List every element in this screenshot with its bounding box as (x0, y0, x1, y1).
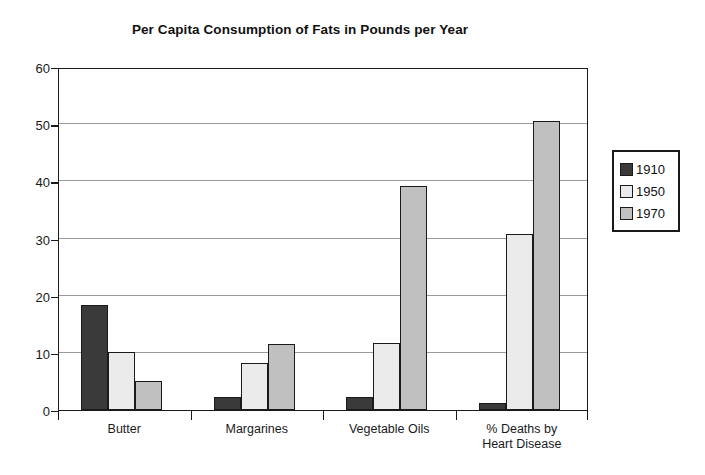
bar-group (324, 69, 457, 410)
x-axis-category-label-line1: Margarines (191, 422, 324, 437)
y-axis-tick-mark (51, 182, 58, 183)
legend-label: 1950 (636, 184, 665, 199)
x-axis-tick-mark (191, 411, 192, 420)
y-axis-tick-mark (51, 354, 58, 355)
legend-swatch-icon (620, 185, 633, 198)
bar-1970[interactable] (400, 186, 427, 410)
y-axis-tick-label: 60 (6, 61, 50, 76)
y-axis-tick-label: 30 (6, 232, 50, 247)
x-axis: ButterMargarinesVegetable Oils% Deaths b… (58, 411, 588, 471)
bar-1910[interactable] (346, 397, 373, 410)
chart-legend: 191019501970 (612, 150, 680, 232)
bar-group (192, 69, 325, 410)
legend-item-1950[interactable]: 1950 (620, 180, 673, 202)
legend-label: 1910 (636, 162, 665, 177)
x-axis-tick-mark (323, 411, 324, 420)
bar-1970[interactable] (533, 121, 560, 410)
bar-group (457, 69, 590, 410)
y-axis-tick-marks (50, 68, 58, 411)
x-axis-category-label: Margarines (191, 422, 324, 437)
bar-1950[interactable] (108, 352, 135, 410)
y-axis-tick-label: 20 (6, 289, 50, 304)
y-axis-tick-label: 50 (6, 118, 50, 133)
y-axis-tick-label: 10 (6, 346, 50, 361)
x-axis-category-label: Butter (58, 422, 191, 437)
x-axis-tick-mark (587, 411, 588, 420)
y-axis-tick-mark (51, 297, 58, 298)
y-axis-tick-mark (51, 240, 58, 241)
x-axis-category-label-line2: Heart Disease (456, 437, 589, 452)
y-axis-tick-mark (51, 125, 58, 126)
bar-1950[interactable] (373, 343, 400, 410)
plot-area (58, 68, 588, 411)
bar-1910[interactable] (479, 403, 506, 410)
bar-group (59, 69, 192, 410)
bars-layer (59, 69, 587, 410)
legend-swatch-icon (620, 207, 633, 220)
y-axis-tick-mark (51, 68, 58, 69)
bar-1910[interactable] (214, 397, 241, 410)
y-axis-tick-label: 0 (6, 404, 50, 419)
x-axis-tick-mark (456, 411, 457, 420)
bar-1950[interactable] (241, 363, 268, 410)
x-axis-category-label: Vegetable Oils (323, 422, 456, 437)
legend-item-1970[interactable]: 1970 (620, 202, 673, 224)
x-axis-category-label-line1: Vegetable Oils (323, 422, 456, 437)
bar-chart: Per Capita Consumption of Fats in Pounds… (0, 0, 705, 475)
bar-1950[interactable] (506, 234, 533, 410)
x-axis-tick-mark (58, 411, 59, 420)
legend-item-1910[interactable]: 1910 (620, 158, 673, 180)
y-axis-tick-label: 40 (6, 175, 50, 190)
legend-label: 1970 (636, 206, 665, 221)
chart-title: Per Capita Consumption of Fats in Pounds… (0, 22, 600, 37)
bar-1970[interactable] (268, 344, 295, 410)
bar-1910[interactable] (81, 305, 108, 410)
y-axis-tick-mark (51, 411, 58, 412)
x-axis-category-label-line1: Butter (58, 422, 191, 437)
bar-1970[interactable] (135, 381, 162, 410)
x-axis-category-label: % Deaths byHeart Disease (456, 422, 589, 452)
legend-swatch-icon (620, 163, 633, 176)
x-axis-category-label-line1: % Deaths by (456, 422, 589, 437)
y-axis-labels: 0102030405060 (0, 68, 50, 411)
